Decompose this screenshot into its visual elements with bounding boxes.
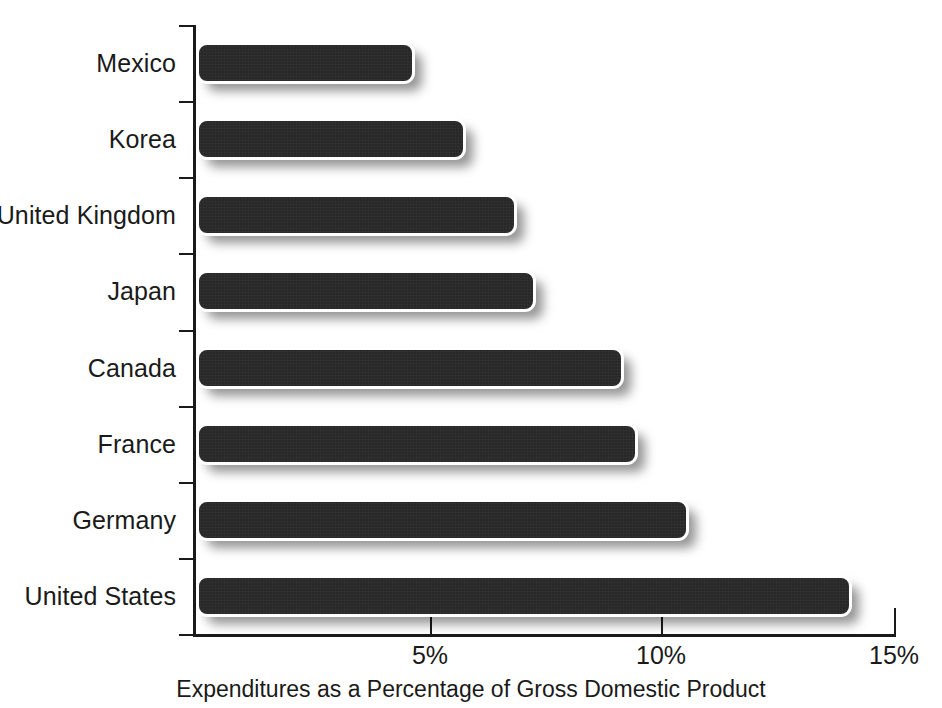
bar-japan[interactable] bbox=[196, 270, 536, 312]
bar-container bbox=[196, 423, 638, 465]
x-axis-tick-label: 10% bbox=[636, 641, 686, 670]
bar-row: France bbox=[0, 406, 942, 482]
bar-container bbox=[196, 118, 466, 160]
category-label: Canada bbox=[88, 354, 176, 383]
category-label: Korea bbox=[109, 125, 176, 154]
bar-canada[interactable] bbox=[196, 347, 624, 389]
category-label: United States bbox=[25, 582, 176, 611]
bar-chart: Mexico Korea United Kingdom Japan Canada… bbox=[0, 0, 942, 708]
bar-container bbox=[196, 499, 689, 541]
category-label: Germany bbox=[72, 506, 176, 535]
bar-row: United Kingdom bbox=[0, 177, 942, 253]
bar-row: Germany bbox=[0, 482, 942, 558]
bar-mexico[interactable] bbox=[196, 42, 415, 84]
bar-container bbox=[196, 194, 517, 236]
bar-united-kingdom[interactable] bbox=[196, 194, 517, 236]
category-label: Mexico bbox=[96, 49, 176, 78]
category-label: France bbox=[98, 430, 176, 459]
bar-row: Mexico bbox=[0, 25, 942, 101]
x-axis-title: Expenditures as a Percentage of Gross Do… bbox=[0, 676, 942, 703]
category-label: Japan bbox=[107, 277, 176, 306]
x-axis-tick-label: 5% bbox=[412, 641, 448, 670]
bar-row: Japan bbox=[0, 253, 942, 329]
bar-row: Korea bbox=[0, 101, 942, 177]
bar-united-states[interactable] bbox=[196, 575, 852, 617]
bar-container bbox=[196, 575, 852, 617]
bar-container bbox=[196, 270, 536, 312]
y-axis-tick bbox=[179, 634, 194, 636]
bar-germany[interactable] bbox=[196, 499, 689, 541]
bar-row: Canada bbox=[0, 330, 942, 406]
x-axis-tick-label: 15% bbox=[869, 641, 919, 670]
bar-container bbox=[196, 42, 415, 84]
bar-row: United States bbox=[0, 558, 942, 634]
bar-container bbox=[196, 347, 624, 389]
bar-korea[interactable] bbox=[196, 118, 466, 160]
bar-france[interactable] bbox=[196, 423, 638, 465]
x-axis-line bbox=[193, 634, 896, 637]
category-label: United Kingdom bbox=[0, 201, 176, 230]
